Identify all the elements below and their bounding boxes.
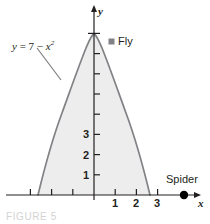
equation-exponent: 2 [51,39,55,47]
x-tick-label-1: 1 [112,198,118,209]
figure-caption: FIGURE 5 [6,211,57,222]
x-tick-label-2: 2 [133,198,139,209]
spider-marker [180,191,188,199]
fly-marker [109,39,115,45]
equation-label: y = 7 − x2 [12,41,54,52]
y-tick-label-1: 1 [83,170,89,181]
figure-container: y = 7 − x2 Fly Spider y x 1 2 3 1 2 3 FI… [0,0,210,224]
equation-operator: = 7 − [17,40,46,52]
parabola-plot [0,0,210,224]
x-axis-label: x [198,198,204,209]
y-axis-arrowhead [91,5,97,12]
y-axis-label: y [98,6,103,17]
equation-leader-line [37,48,61,80]
y-tick-label-3: 3 [83,129,89,140]
fly-label: Fly [118,36,133,47]
x-tick-label-3: 3 [154,198,160,209]
spider-label: Spider [166,174,198,185]
y-tick-label-2: 2 [83,150,89,161]
